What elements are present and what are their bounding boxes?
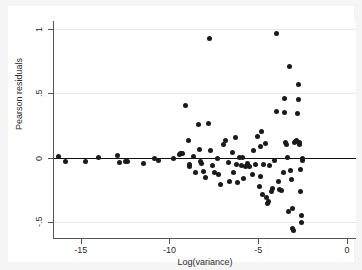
scatter-point [187,162,192,167]
scatter-point [141,161,146,166]
scatter-point [251,148,256,153]
scatter-point [272,158,277,163]
x-axis-tick [169,239,170,244]
scatter-point [247,164,252,169]
scatter-point [207,36,212,41]
scatter-point [201,169,206,174]
scatter-point [208,148,213,153]
scatter-point [259,129,264,134]
scatter-point [235,180,240,185]
y-axis-tick [48,29,53,30]
scatter-point [196,122,201,127]
scatter-point [125,159,130,164]
scatter-point [241,176,246,181]
scatter-point [258,174,263,179]
scatter-point [295,111,300,116]
x-axis-tick-label: -10 [163,245,176,255]
scatter-point [83,159,88,164]
gridline-y-minus0_5 [54,222,356,223]
scatter-point [261,162,266,167]
y-axis-tick-label: 1 [34,20,44,38]
x-axis-tick [347,239,348,244]
scatter-point [117,160,122,165]
scatter-point [156,158,161,163]
scatter-point [299,220,304,225]
scatter-point [267,163,272,168]
scatter-point [199,161,204,166]
x-axis-tick-label: 0 [345,245,350,255]
scatter-point [203,175,208,180]
y-axis-tick [48,93,53,94]
chart-canvas: 1.50-.5 -15-10-50 Pearson residuals Log(… [8,6,354,262]
x-axis-tick [81,239,82,244]
scatter-point [285,155,290,160]
chart-figure: 1.50-.5 -15-10-50 Pearson residuals Log(… [0,0,362,270]
scatter-point [281,170,286,175]
scatter-point [250,172,255,177]
scatter-point [218,182,223,187]
scatter-point [227,179,232,184]
x-axis-title: Log(variance) [54,257,356,267]
scatter-point [290,206,295,211]
scatter-point [233,135,238,140]
scatter-point [299,213,304,218]
scatter-point [231,170,236,175]
gridline-y-1 [54,29,356,30]
scatter-point [193,170,198,175]
scatter-point [206,121,211,126]
scatter-point [296,82,301,87]
x-axis-tick-label: -15 [74,245,87,255]
scatter-point [240,155,245,160]
y-axis-tick [48,222,53,223]
scatter-point [279,188,284,193]
scatter-point [226,160,231,165]
scatter-point [289,177,294,182]
scatter-point [230,150,235,155]
scatter-point [115,153,120,158]
scatter-point [255,134,260,139]
y-axis-line [53,21,54,239]
scatter-point [288,168,293,173]
scatter-point [297,142,302,147]
x-axis-tick-label: -5 [254,245,262,255]
scatter-point [298,189,303,194]
plot-region [54,23,356,237]
scatter-point [263,141,268,146]
scatter-point [287,64,292,69]
y-axis-tick-label: -.5 [34,213,44,231]
scatter-point [291,228,296,233]
y-axis-tick [48,158,53,159]
scatter-point [257,184,262,189]
scatter-point [253,162,258,167]
x-axis-tick [258,239,259,244]
scatter-point [216,172,221,177]
scatter-point [186,138,191,143]
y-axis-tick-label: .5 [34,84,44,102]
scatter-point [215,156,220,161]
gridline-y-0_5 [54,93,356,94]
scatter-point [296,97,301,102]
scatter-point [274,109,279,114]
scatter-point [183,103,188,108]
scatter-point [270,186,275,191]
scatter-point [298,167,303,172]
scatter-point [180,151,185,156]
x-axis-line [53,238,356,239]
scatter-point [282,110,287,115]
scatter-point [197,147,202,152]
scatter-point [266,199,271,204]
scatter-point [274,31,279,36]
scatter-point [171,156,176,161]
scatter-point [96,155,101,160]
scatter-point [63,159,68,164]
scatter-point [282,96,287,101]
scatter-point [210,163,215,168]
scatter-point [223,138,228,143]
scatter-point [276,179,281,184]
y-axis-title: Pearson residuals [14,58,24,130]
y-axis-tick-label: 0 [34,149,44,167]
scatter-point [284,142,289,147]
scatter-point [234,162,239,167]
